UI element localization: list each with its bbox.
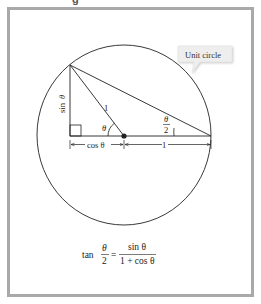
half-theta-numerator: θ <box>164 114 168 124</box>
cos-theta-label: cos θ <box>87 140 105 150</box>
base-length-label: 1 <box>162 140 166 150</box>
theta-angle-arc <box>108 123 114 136</box>
theta-angle-label: θ <box>102 123 106 133</box>
callout-label: Unit circle <box>185 50 221 60</box>
radius-length-label: 1 <box>104 103 108 113</box>
formula-lhs-numerator: θ <box>102 243 107 253</box>
formula-equals: = <box>111 250 116 260</box>
formula-lhs-denominator: 2 <box>102 256 107 266</box>
formula-rhs-numerator: sin θ <box>128 242 146 252</box>
right-angle-marker <box>70 125 81 136</box>
tangent-half-angle-formula: tan θ 2 = sin θ 1 + cos θ <box>82 242 156 266</box>
center-point <box>121 133 126 138</box>
formula-tan: tan <box>82 250 94 260</box>
half-theta-denominator: 2 <box>164 125 168 135</box>
sin-theta-label: sin θ <box>57 95 67 113</box>
unit-circle-diagram: cos θ 1 sin θ 1 θ θ 2 Unit circle tan θ … <box>0 0 261 304</box>
formula-rhs-denominator: 1 + cos θ <box>120 256 155 266</box>
